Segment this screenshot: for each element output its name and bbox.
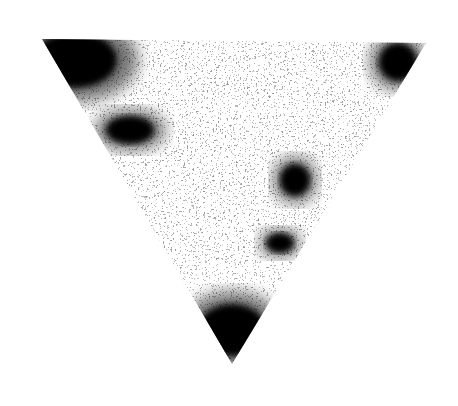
- lower-right-spot-dark-spot: [266, 233, 294, 253]
- artwork: Inverted black-and-white textured triang…: [0, 0, 458, 406]
- inverted-triangle-texture: [0, 0, 458, 406]
- right-spot-dark-spot: [280, 164, 310, 196]
- upper-left-smudge-dark-spot: [106, 116, 154, 144]
